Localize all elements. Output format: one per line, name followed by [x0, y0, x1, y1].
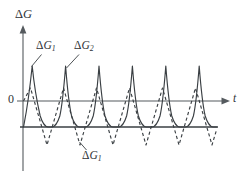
- annotation-g2-top-g: G: [81, 39, 89, 51]
- annotation-g1-bottom-g: G: [89, 149, 97, 161]
- curve-delta-g2-solid: [24, 66, 217, 127]
- wave-plot: [0, 0, 249, 181]
- annotation-g1-bottom-sub: 1: [98, 154, 102, 163]
- zero-tick-label: 0: [8, 93, 14, 105]
- arrow-right-icon: [222, 98, 231, 105]
- annotation-delta-g1-bottom: ΔG1: [82, 150, 102, 163]
- curve-delta-g1-dashed: [24, 88, 217, 145]
- x-axis: [17, 98, 230, 105]
- annotation-g1-top-sub: 1: [52, 44, 56, 53]
- arrow-up-icon: [20, 25, 27, 34]
- y-axis-label-g: G: [23, 7, 32, 21]
- y-axis-label-delta: Δ: [15, 7, 23, 21]
- y-axis-label: ΔG: [15, 8, 32, 21]
- x-axis-label: t: [233, 93, 236, 105]
- annotation-g2-top-sub: 2: [90, 44, 94, 53]
- annotation-g1-top-g: G: [43, 39, 51, 51]
- figure-container: ΔG t 0 ΔG1 ΔG2 ΔG1: [0, 0, 249, 181]
- annotation-delta-g2-top: ΔG2: [74, 40, 94, 53]
- annotation-delta-g1-top: ΔG1: [36, 40, 56, 53]
- y-axis: [20, 25, 27, 171]
- leader-line-g1-top: [32, 55, 42, 67]
- leader-line-g2-top: [67, 55, 80, 69]
